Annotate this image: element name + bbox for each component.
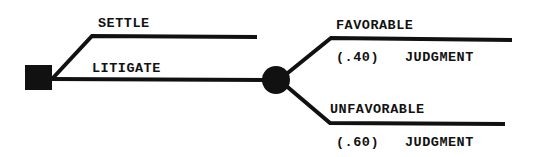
favorable-label: FAVORABLE (336, 18, 413, 33)
decision-node-square (25, 65, 52, 90)
unfavorable-probability: (.60) (336, 135, 379, 150)
unfavorable-label: UNFAVORABLE (330, 102, 425, 117)
favorable-branch-line (284, 38, 512, 76)
litigate-label: LITIGATE (92, 61, 161, 76)
decision-tree-diagram: SETTLE LITIGATE FAVORABLE (.40) JUDGMENT… (0, 0, 539, 157)
favorable-judgment-label: JUDGMENT (405, 50, 474, 65)
favorable-probability: (.40) (336, 50, 379, 65)
litigate-branch-line (52, 79, 266, 80)
unfavorable-judgment-label: JUDGMENT (405, 135, 474, 150)
settle-label: SETTLE (98, 16, 150, 31)
chance-node-circle (262, 66, 290, 94)
